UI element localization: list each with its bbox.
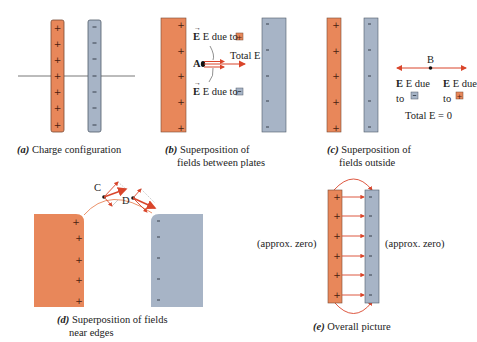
svg-text:+: + xyxy=(332,123,340,133)
label-right-approx-zero: (approx. zero) xyxy=(385,238,444,249)
negative-plate xyxy=(364,18,378,132)
panel-e-overall: + + + + + + xyxy=(328,179,379,314)
svg-text:+: + xyxy=(75,296,83,306)
caption-b-letter: (b) xyxy=(165,144,177,155)
svg-text:+: + xyxy=(333,211,341,221)
svg-text:+: + xyxy=(54,55,62,65)
negative-plate xyxy=(262,18,286,132)
label-e-due-to-positive-outside: E E due to xyxy=(443,76,477,106)
panel-d-near-edges: + + + + + xyxy=(34,182,203,307)
negative-plate xyxy=(365,190,379,303)
svg-text:+: + xyxy=(177,20,185,30)
svg-text:+: + xyxy=(54,23,62,33)
caption-c-letter: (c) xyxy=(327,144,339,155)
svg-text:+: + xyxy=(75,255,83,265)
label-e-due-to-negative: E→ E due to xyxy=(193,86,238,97)
negative-plate-edge xyxy=(151,214,203,307)
svg-text:+: + xyxy=(332,97,340,107)
svg-text:+: + xyxy=(177,71,185,81)
svg-text:+: + xyxy=(72,217,80,227)
svg-text:+: + xyxy=(75,275,83,285)
svg-text:+: + xyxy=(54,120,62,130)
svg-text:+: + xyxy=(54,103,62,113)
svg-text:+: + xyxy=(332,20,340,30)
caption-e: (e) Overall picture xyxy=(313,320,391,333)
svg-text:+: + xyxy=(177,123,185,133)
caption-a-text: Charge configuration xyxy=(32,144,121,155)
caption-a: (a) Charge configuration xyxy=(17,143,121,156)
svg-text:+: + xyxy=(333,231,341,241)
label-e-due-to-negative-outside: E E due to xyxy=(396,76,430,106)
svg-text:+: + xyxy=(75,233,83,243)
caption-d-letter: (d) xyxy=(57,314,69,325)
positive-plate xyxy=(328,190,342,303)
point-b xyxy=(429,66,433,70)
point-d-label: D xyxy=(122,195,130,206)
caption-b: (b) Superposition of fields between plat… xyxy=(165,143,265,169)
svg-text:+: + xyxy=(333,251,341,261)
svg-text:+: + xyxy=(177,46,185,56)
label-total-e-zero: Total E = 0 xyxy=(405,110,452,121)
svg-text:+: + xyxy=(333,192,341,202)
caption-d: (d) Superposition of fields near edges xyxy=(57,313,168,339)
point-a-label: A xyxy=(193,58,201,69)
svg-text:+: + xyxy=(54,87,62,97)
svg-text:+: + xyxy=(54,71,62,81)
svg-text:+: + xyxy=(332,46,340,56)
caption-c: (c) Superposition of fields outside xyxy=(327,143,411,169)
point-b-label: B xyxy=(427,54,434,65)
svg-text:+: + xyxy=(177,97,185,107)
label-e-due-to-positive: E→ E due to xyxy=(193,31,238,42)
bottom-fringe-arc xyxy=(334,302,372,314)
panel-a-charge-configuration: + + + + + + + xyxy=(18,20,135,132)
top-fringe-arc xyxy=(334,179,372,190)
svg-text:+: + xyxy=(333,270,341,280)
svg-text:+: + xyxy=(332,71,340,81)
caption-e-letter: (e) xyxy=(313,321,325,332)
uniform-field-arrows xyxy=(342,197,364,295)
point-c-label: C xyxy=(94,182,101,193)
caption-a-letter: (a) xyxy=(17,144,29,155)
label-left-approx-zero: (approx. zero) xyxy=(257,238,316,249)
label-total-e: Total E xyxy=(230,50,260,61)
svg-text:+: + xyxy=(54,39,62,49)
svg-text:+: + xyxy=(333,290,341,300)
